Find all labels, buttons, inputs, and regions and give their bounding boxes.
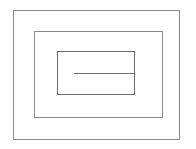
- canvas-background: [0, 0, 196, 149]
- figure-canvas: Nested rectangles spiral line drawing Th…: [0, 0, 196, 149]
- nested-rectangles-diagram: [0, 0, 196, 149]
